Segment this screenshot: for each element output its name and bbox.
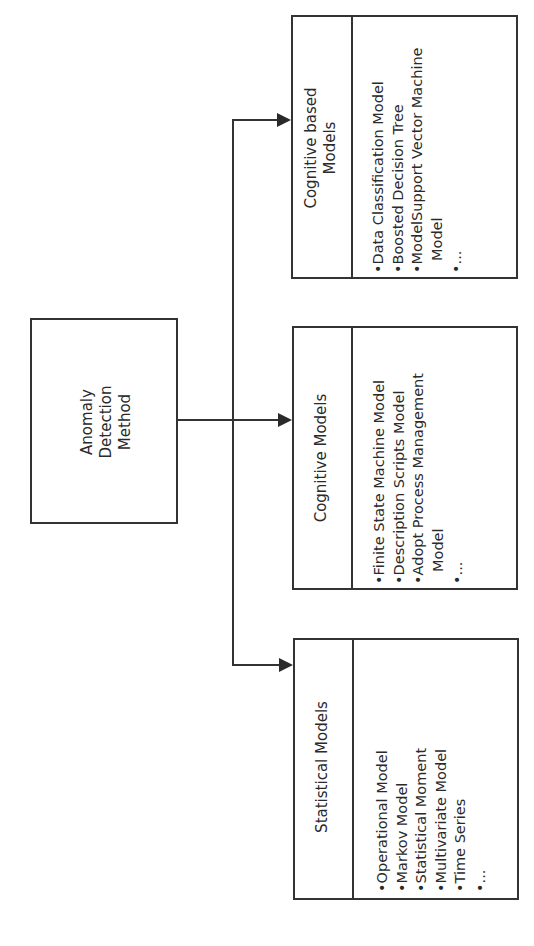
list-item: •...	[447, 25, 467, 273]
list-item: •...	[471, 642, 491, 892]
arrowhead-top-icon	[277, 113, 291, 127]
list-item: •Description Scripts Model	[390, 336, 410, 584]
list-item: •Boosted Decision Tree	[389, 25, 409, 273]
branch-title: Cognitive Models	[312, 388, 331, 528]
list-item: •ModelSupport Vector Machine	[408, 25, 428, 273]
connector-to-top-branch	[232, 119, 278, 121]
list-item: •...	[448, 336, 468, 584]
list-item: Model	[428, 25, 448, 273]
root-node-anomaly-detection-method: Anomaly Detection Method	[30, 318, 178, 524]
connector-trunk-vertical	[232, 119, 234, 666]
branch-title-line: Cognitive Models	[312, 388, 331, 528]
connector-to-bottom-branch	[232, 664, 280, 666]
branch-item-list: •Operational Model •Markov Model •Statis…	[373, 642, 490, 892]
arrowhead-middle-icon	[278, 413, 292, 427]
header-divider	[352, 640, 354, 898]
branch-node-cognitive-based-models: Cognitive based Models •Data Classificat…	[291, 15, 518, 279]
list-item: •Finite State Machine Model	[370, 336, 390, 584]
branch-title-line: Statistical Models	[313, 692, 332, 842]
root-node-label: Anomaly Detection Method	[78, 372, 135, 472]
branch-item-list: •Finite State Machine Model •Description…	[370, 336, 468, 584]
root-label-line: Method	[116, 372, 135, 472]
list-item: •Markov Model	[393, 642, 413, 892]
connector-root-to-trunk	[177, 419, 279, 421]
header-divider	[351, 328, 353, 588]
list-item: •Data Classification Model	[369, 25, 389, 273]
branch-title: Cognitive based Models	[302, 78, 340, 218]
header-divider	[351, 17, 353, 277]
list-item: •Operational Model	[373, 642, 393, 892]
branch-title: Statistical Models	[313, 692, 332, 842]
arrowhead-bottom-icon	[279, 658, 293, 672]
list-item: •Adopt Process Management	[409, 336, 429, 584]
branch-title-line: Cognitive based	[302, 78, 321, 218]
root-label-line: Detection	[97, 372, 116, 472]
branch-item-list: •Data Classification Model •Boosted Deci…	[369, 25, 467, 273]
branch-node-cognitive-models: Cognitive Models •Finite State Machine M…	[292, 326, 518, 590]
list-item: •Time Series	[451, 642, 471, 892]
list-item: •Statistical Moment	[412, 642, 432, 892]
branch-node-statistical-models: Statistical Models •Operational Model •M…	[293, 638, 519, 900]
branch-title-line: Models	[321, 78, 340, 218]
list-item: •Multivariate Model	[432, 642, 452, 892]
list-item: Model	[429, 336, 449, 584]
root-label-line: Anomaly	[78, 372, 97, 472]
